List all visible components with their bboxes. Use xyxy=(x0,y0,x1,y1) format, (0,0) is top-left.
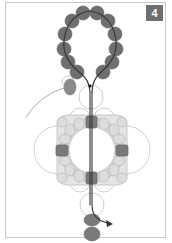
diagram-canvas: 4 xyxy=(0,0,172,243)
knot-dot xyxy=(88,84,91,87)
arrow-head-icon xyxy=(106,220,113,227)
loop-beads xyxy=(57,6,123,79)
step-number-badge: 4 xyxy=(146,5,163,21)
side-bead xyxy=(64,79,76,95)
beading-diagram xyxy=(0,0,172,243)
